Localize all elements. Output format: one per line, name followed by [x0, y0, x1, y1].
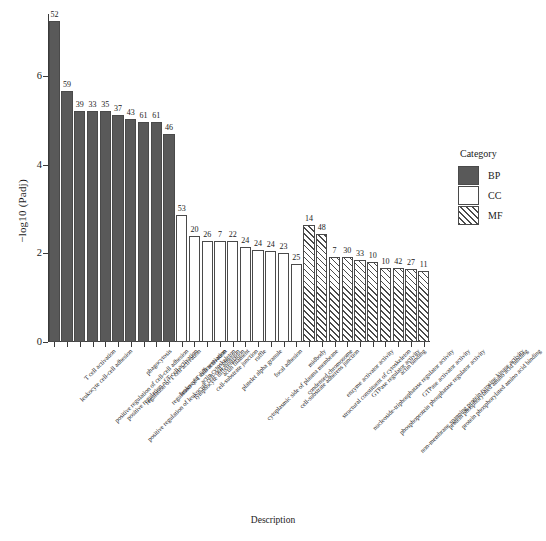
x-tick [80, 342, 81, 347]
bar[interactable] [405, 269, 416, 342]
x-tick [207, 342, 208, 347]
bar-value-label: 59 [55, 81, 79, 89]
bar-value-label: 61 [144, 112, 168, 120]
bar[interactable] [278, 253, 289, 342]
legend: Category BPCCMF [458, 148, 502, 226]
legend-label: BP [488, 170, 500, 181]
bar[interactable] [367, 262, 378, 342]
x-tick [220, 342, 221, 347]
y-tick-label: 6 [24, 71, 42, 82]
x-tick [309, 342, 310, 347]
bar[interactable] [303, 225, 314, 342]
x-axis-title: Description [0, 515, 546, 525]
x-tick [54, 342, 55, 347]
legend-swatch-bp [458, 166, 479, 185]
x-axis-tick-labels: leukocyte cell-cell adhesionT cell activ… [48, 348, 430, 498]
bar[interactable] [176, 215, 187, 342]
bar[interactable] [61, 91, 72, 342]
x-tick [271, 342, 272, 347]
x-tick [296, 342, 297, 347]
x-tick [411, 342, 412, 347]
bar[interactable] [100, 111, 111, 342]
x-tick [105, 342, 106, 347]
bar[interactable] [240, 247, 251, 342]
legend-entry[interactable]: MF [458, 206, 502, 225]
bar[interactable] [214, 241, 225, 342]
x-tick [144, 342, 145, 347]
x-tick [398, 342, 399, 347]
chart-root: −log10 (Padj) 0246 525939333537436161465… [0, 0, 546, 541]
bar[interactable] [74, 111, 85, 342]
x-tick [118, 342, 119, 347]
bar[interactable] [329, 257, 340, 342]
x-tick [156, 342, 157, 347]
bar-value-label: 23 [272, 243, 296, 251]
bar-series: 5259393335374361614653202672224242423251… [48, 14, 430, 342]
bar[interactable] [112, 115, 123, 342]
bar-value-label: 48 [310, 224, 334, 232]
bar-value-label: 52 [42, 11, 66, 19]
bar[interactable] [49, 21, 60, 342]
legend-entry[interactable]: BP [458, 166, 502, 185]
plot-panel: 0246 52593933353743616146532026722242424… [48, 14, 430, 342]
legend-entry[interactable]: CC [458, 186, 502, 205]
bar[interactable] [342, 257, 353, 342]
x-tick [67, 342, 68, 347]
bar[interactable] [125, 119, 136, 342]
y-tick-label: 2 [24, 248, 42, 259]
bar[interactable] [265, 251, 276, 342]
x-tick [182, 342, 183, 347]
legend-title: Category [460, 148, 502, 159]
bar[interactable] [202, 241, 213, 342]
legend-swatch-cc [458, 186, 479, 205]
x-tick [284, 342, 285, 347]
legend-entries: BPCCMF [458, 166, 502, 225]
legend-label: CC [488, 190, 501, 201]
x-tick [373, 342, 374, 347]
x-tick [360, 342, 361, 347]
x-tick [424, 342, 425, 347]
bar[interactable] [418, 271, 429, 342]
x-tick [335, 342, 336, 347]
y-tick [43, 342, 48, 343]
bar-value-label: 46 [157, 124, 181, 132]
x-tick [131, 342, 132, 347]
bar-value-label: 53 [170, 205, 194, 213]
legend-label: MF [488, 210, 502, 221]
bar[interactable] [380, 268, 391, 342]
bar[interactable] [189, 236, 200, 342]
bar[interactable] [138, 122, 149, 342]
x-tick [233, 342, 234, 347]
bar[interactable] [227, 241, 238, 342]
bar[interactable] [393, 268, 404, 342]
x-tick [385, 342, 386, 347]
x-tick [169, 342, 170, 347]
bar[interactable] [151, 122, 162, 342]
bar-value-label: 11 [412, 261, 436, 269]
y-tick-label: 0 [24, 337, 42, 348]
bar[interactable] [252, 250, 263, 342]
bar-value-label: 14 [297, 215, 321, 223]
plot-area: 0246 52593933353743616146532026722242424… [48, 14, 430, 342]
x-tick [194, 342, 195, 347]
bar[interactable] [163, 134, 174, 342]
x-tick [93, 342, 94, 347]
legend-swatch-mf [458, 206, 479, 225]
x-tick [245, 342, 246, 347]
y-tick-label: 4 [24, 160, 42, 171]
bar[interactable] [354, 260, 365, 342]
bar[interactable] [87, 111, 98, 342]
bar[interactable] [291, 264, 302, 342]
x-tick [258, 342, 259, 347]
